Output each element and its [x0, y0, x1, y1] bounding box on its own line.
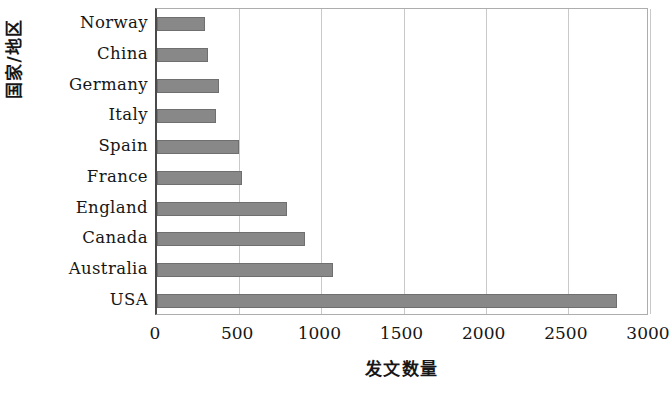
x-tick-label-0: 0 [115, 322, 195, 344]
bar-italy [157, 109, 216, 123]
bar-chart: 国家/地区 USAAustraliaCanadaEnglandFranceSpa… [0, 0, 672, 393]
y-tick-label-france: France [14, 168, 148, 186]
y-tick-label-usa: USA [14, 291, 148, 309]
x-tick-label-500: 500 [197, 322, 277, 344]
x-tick-label-2500: 2500 [526, 322, 606, 344]
bar-norway [157, 17, 205, 31]
bar-spain [157, 140, 239, 154]
gridline [650, 9, 651, 314]
bar-france [157, 171, 242, 185]
x-axis-title: 发文数量 [155, 355, 648, 380]
bar-china [157, 48, 208, 62]
bar-australia [157, 263, 333, 277]
x-tick-label-3000: 3000 [608, 322, 672, 344]
y-tick-label-spain: Spain [14, 137, 148, 155]
x-tick-label-2000: 2000 [444, 322, 524, 344]
y-tick-label-italy: Italy [14, 106, 148, 124]
x-tick-label-1000: 1000 [279, 322, 359, 344]
y-tick-label-china: China [14, 45, 148, 63]
y-tick-label-england: England [14, 199, 148, 217]
y-tick-label-norway: Norway [14, 14, 148, 32]
bar-row [157, 79, 647, 93]
bar-row [157, 48, 647, 62]
bar-row [157, 171, 647, 185]
y-tick-label-australia: Australia [14, 260, 148, 278]
bar-row [157, 263, 647, 277]
bar-row [157, 232, 647, 246]
y-axis-tick-labels: USAAustraliaCanadaEnglandFranceSpainItal… [14, 8, 148, 315]
bar-row [157, 109, 647, 123]
bar-germany [157, 79, 219, 93]
bar-row [157, 294, 647, 308]
bar-row [157, 17, 647, 31]
bar-england [157, 202, 287, 216]
y-tick-label-canada: Canada [14, 229, 148, 247]
y-tick-label-germany: Germany [14, 76, 148, 94]
bar-row [157, 140, 647, 154]
x-tick-label-1500: 1500 [362, 322, 442, 344]
x-axis-tick-labels: 050010001500200025003000 [0, 322, 672, 348]
bar-canada [157, 232, 305, 246]
bar-usa [157, 294, 617, 308]
bar-row [157, 202, 647, 216]
plot-area [155, 8, 648, 315]
